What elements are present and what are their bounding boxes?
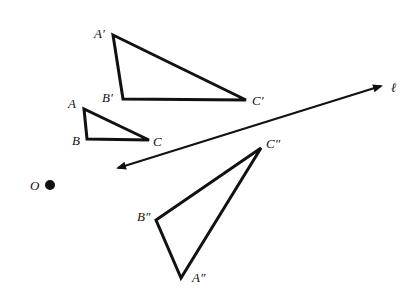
vertex-label-a: A: [67, 96, 76, 111]
transformation-diagram: ℓ O A B C A′ B′ C′ A″ B″ C″: [0, 0, 415, 296]
vertex-label-a-prime: A′: [93, 26, 105, 41]
point-o-dot: [45, 180, 55, 190]
vertex-label-a-double-prime: A″: [191, 270, 206, 285]
vertex-label-b-double-prime: B″: [137, 209, 151, 224]
vertex-label-b-prime: B′: [102, 90, 113, 105]
triangle-a-double-prime: A″ B″ C″: [137, 136, 281, 285]
vertex-label-b: B: [72, 133, 80, 148]
triangle-a-prime: A′ B′ C′: [93, 26, 264, 108]
triangle-a-prime-shape: [113, 35, 246, 100]
vertex-label-c: C: [153, 134, 162, 149]
vertex-label-c-prime: C′: [252, 93, 264, 108]
point-o-label: O: [30, 178, 40, 193]
vertex-label-c-double-prime: C″: [266, 136, 281, 151]
line-l-label: ℓ: [391, 80, 397, 95]
triangle-a-double-prime-shape: [156, 148, 261, 278]
triangle-abc: A B C: [67, 96, 162, 149]
triangle-abc-shape: [84, 109, 149, 140]
